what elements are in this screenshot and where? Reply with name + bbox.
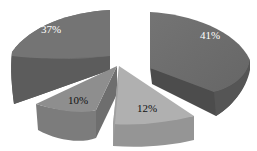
label-37: 37% [41,23,61,35]
label-12: 12% [137,102,157,114]
label-41: 41% [200,29,220,41]
pie-chart: 37% 41% 10% 12% [0,0,257,151]
label-10: 10% [68,94,88,106]
